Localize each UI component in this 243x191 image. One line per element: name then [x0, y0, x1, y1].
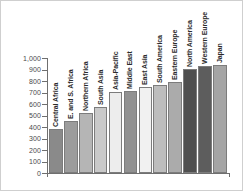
bar-category-label: Eastern Europe [171, 29, 178, 79]
y-axis-tick-label: 800 [1, 78, 41, 85]
y-axis-tick-label: 600 [1, 101, 41, 108]
bar-category-label: South Asia [97, 70, 104, 105]
bar-category-label: Northern Africa [82, 62, 89, 112]
bar-category-label: Japan [216, 43, 223, 63]
bar-category-label: South America [156, 35, 163, 83]
bar[interactable]: East Asia [139, 87, 153, 173]
bar[interactable]: Middle East [124, 91, 138, 173]
bar-category-label: E. and S. Africa [67, 69, 74, 119]
x-axis-right-cap [229, 173, 230, 177]
y-axis-tick-label: 200 [1, 147, 41, 154]
y-axis-tick-label: 300 [1, 135, 41, 142]
y-axis-tick-label: 0 [1, 170, 41, 177]
bar[interactable]: Western Europe [198, 66, 212, 173]
y-axis-tick-label: 100 [1, 158, 41, 165]
y-axis-tick-label: 500 [1, 112, 41, 119]
bar-chart-figure: 1,0009008007006005004003002001000 Centra… [0, 0, 243, 191]
bar-category-label: Central Africa [52, 83, 59, 127]
plot-area: 1,0009008007006005004003002001000 Centra… [1, 1, 243, 191]
bar[interactable]: Central Africa [49, 129, 63, 173]
bar[interactable]: Eastern Europe [168, 82, 182, 173]
y-axis-tick-label: 700 [1, 89, 41, 96]
bar[interactable]: South America [153, 85, 167, 173]
y-axis-tick-label: 900 [1, 66, 41, 73]
x-axis-left-cap [47, 173, 48, 177]
bar[interactable]: E. and S. Africa [64, 121, 78, 173]
y-axis-tick-label: 400 [1, 124, 41, 131]
bar-category-label: Asia-Pacific [112, 51, 119, 90]
bar-category-label: North America [186, 20, 193, 67]
bar[interactable]: Japan [213, 65, 227, 173]
y-axis-tick-label: 1,000 [1, 55, 41, 62]
bar[interactable]: South Asia [94, 107, 108, 173]
bar-category-label: East Asia [142, 54, 149, 84]
y-axis-tick-labels: 1,0009008007006005004003002001000 [1, 1, 41, 191]
x-axis-line [47, 173, 230, 174]
bar-category-label: Western Europe [201, 12, 208, 64]
bar-category-label: Middle East [127, 51, 134, 89]
y-axis-line [47, 58, 48, 174]
bar[interactable]: Asia-Pacific [109, 92, 123, 173]
bar[interactable]: North America [183, 69, 197, 173]
bar[interactable]: Northern Africa [79, 113, 93, 173]
